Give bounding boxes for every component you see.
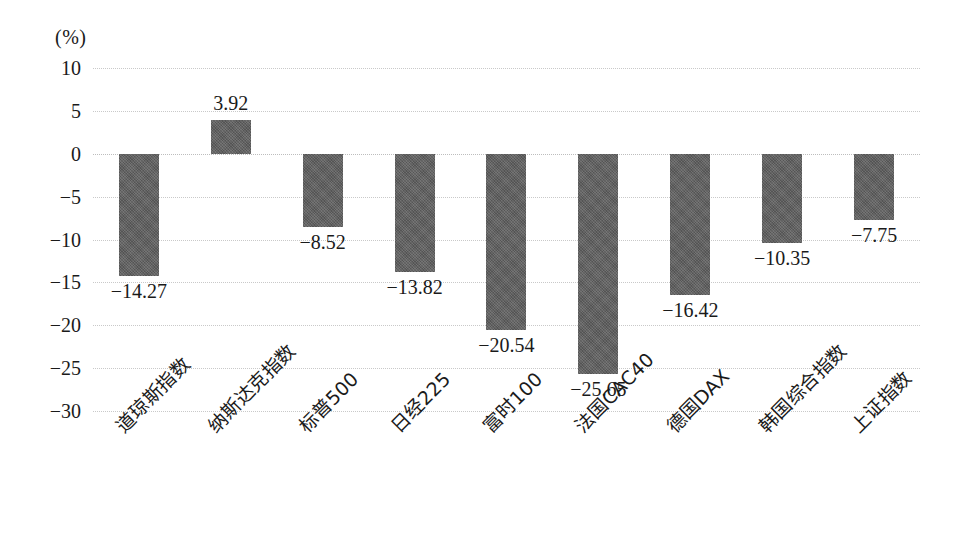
y-axis-tick-label: −5 xyxy=(60,185,81,208)
y-axis-tick-label: −30 xyxy=(50,400,81,423)
bar-value-label: −20.54 xyxy=(478,334,534,357)
bar-value-label: −16.42 xyxy=(662,299,718,322)
y-axis-tick-label: −10 xyxy=(50,228,81,251)
bar[interactable] xyxy=(854,154,894,220)
bar-value-label: −7.75 xyxy=(851,224,897,247)
bar-value-label: −10.35 xyxy=(754,247,810,270)
bar[interactable] xyxy=(670,154,710,295)
plot-area: 1050−5−10−15−20−25−30 −14.273.92−8.52−13… xyxy=(93,68,920,411)
bar[interactable] xyxy=(119,154,159,276)
bar[interactable] xyxy=(762,154,802,243)
bar-value-label: −14.27 xyxy=(111,280,167,303)
y-axis-unit-label: (%) xyxy=(55,26,86,49)
bar-slot: −20.54 xyxy=(461,68,553,411)
y-axis-tick-label: −25 xyxy=(50,357,81,380)
y-axis-tick-label: −20 xyxy=(50,314,81,337)
chart-figure: (%) 1050−5−10−15−20−25−30 −14.273.92−8.5… xyxy=(0,0,964,553)
bar-slot: −13.82 xyxy=(369,68,461,411)
x-axis-category-labels: 道琼斯指数纳斯达克指数标普500日经225富时100法国CAC40德国DAX韩国… xyxy=(93,418,920,553)
bar[interactable] xyxy=(211,120,251,154)
y-axis-tick-label: −15 xyxy=(50,271,81,294)
bar-series: −14.273.92−8.52−13.82−20.54−25.65−16.42−… xyxy=(93,68,920,411)
bar-value-label: 3.92 xyxy=(213,92,248,115)
bar[interactable] xyxy=(578,154,618,374)
y-axis-tick-label: 0 xyxy=(71,142,81,165)
bar[interactable] xyxy=(486,154,526,330)
y-axis-tick-label: 10 xyxy=(61,57,81,80)
bar[interactable] xyxy=(395,154,435,273)
bar-slot: −16.42 xyxy=(644,68,736,411)
y-axis-tick-label: 5 xyxy=(71,99,81,122)
bar[interactable] xyxy=(303,154,343,227)
bar-value-label: −13.82 xyxy=(386,276,442,299)
bar-value-label: −8.52 xyxy=(300,231,346,254)
